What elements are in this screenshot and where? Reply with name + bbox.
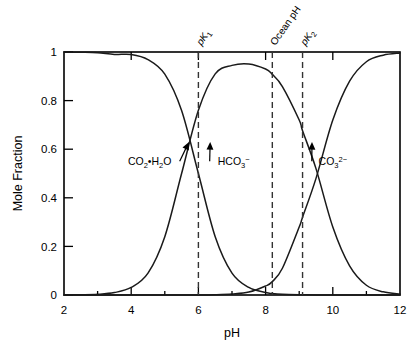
x-tick-label: 12 [394, 304, 407, 316]
hco3-annotation: HCO3− [218, 155, 251, 170]
carbonate-speciation-figure: 00.20.40.60.8124681012pHMole FractionpK1… [0, 0, 415, 353]
x-tick-label: 2 [61, 304, 67, 316]
curve-co3-2 [64, 53, 400, 295]
y-axis-title: Mole Fraction [11, 136, 25, 212]
arrow-head [308, 142, 315, 150]
curve-hco3 [64, 64, 400, 295]
marker-label-text: pK2 [298, 27, 319, 49]
marker-label-text: pK1 [193, 27, 214, 49]
y-tick-label: 0.4 [41, 192, 58, 204]
x-tick-label: 10 [326, 304, 339, 316]
hco3-annotation-arrow [207, 142, 214, 161]
marker-label-pk1: pK1 [193, 27, 214, 49]
y-tick-label: 0 [51, 289, 57, 301]
figure-caption-clipped [0, 347, 415, 353]
curve-co2-h2o [64, 52, 400, 295]
marker-label-pk2: pK2 [298, 27, 319, 49]
y-tick-label: 0.2 [41, 241, 57, 253]
x-axis-title: pH [224, 326, 240, 340]
co32-annotation: CO32− [319, 155, 348, 170]
x-tick-label: 4 [128, 304, 135, 316]
x-tick-label: 8 [262, 304, 268, 316]
y-tick-label: 0.6 [41, 143, 57, 155]
arrow-head [207, 142, 214, 150]
y-tick-label: 0.8 [41, 95, 57, 107]
plot-frame [64, 52, 400, 295]
speciation-chart: 00.20.40.60.8124681012pHMole FractionpK1… [0, 0, 415, 353]
x-tick-label: 6 [195, 304, 201, 316]
y-tick-label: 1 [51, 46, 57, 58]
co2-h2o-annotation: CO2•H2O [128, 155, 172, 170]
